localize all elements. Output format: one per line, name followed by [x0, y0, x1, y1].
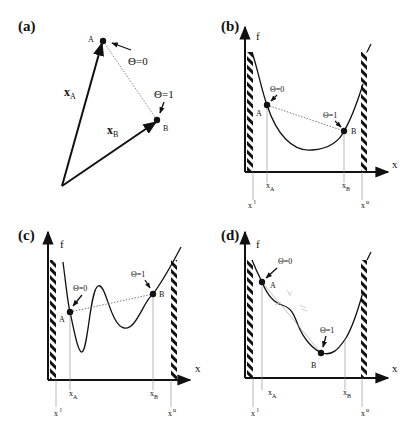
upper-bound-hatch: [171, 260, 177, 379]
lower-bound-hatch: [247, 260, 253, 377]
arrow-theta0: [271, 95, 277, 101]
panel-label: (a): [18, 18, 36, 35]
point-A: [67, 309, 73, 315]
theta1-label: Θ=1: [320, 326, 334, 335]
vector-xA-label: xA: [64, 85, 76, 101]
point-B: [318, 350, 324, 356]
panel-c: (c) f x A B Θ=0 Θ=1 xA xB xl xu: [18, 227, 201, 418]
tick-xA: xA: [266, 181, 275, 192]
function-curve: [63, 247, 181, 352]
theta0-label: Θ=0: [270, 85, 284, 94]
x-axis-label: x: [195, 362, 201, 374]
lower-bound-hatch: [247, 52, 253, 171]
theta0-label: Θ=0: [128, 55, 148, 67]
point-A-label: A: [88, 35, 94, 44]
tick-xB: xB: [150, 389, 158, 400]
tick-xA: xA: [268, 388, 277, 399]
arrow-theta0: [73, 295, 82, 306]
faint-step-marks: [300, 305, 307, 311]
point-B-label: B: [311, 361, 316, 370]
panel-label: (c): [18, 227, 35, 244]
tick-xu: xu: [361, 407, 369, 418]
point-B: [341, 128, 347, 134]
tick-xu: xu: [168, 407, 176, 418]
panel-b: (b) f x A B Θ=0 Θ=1 xA xB xl xu: [221, 18, 398, 210]
arrow-theta1: [160, 102, 164, 113]
theta0-label: Θ=0: [278, 257, 292, 266]
panel-label: (d): [221, 227, 239, 244]
arrow-theta0: [266, 268, 277, 278]
theta1-label: Θ=1: [131, 270, 145, 279]
y-axis-label: f: [60, 238, 64, 250]
figure-canvas: (a) A B Θ=0 Θ=1 xA xB (b) f x A B Θ=0 Θ=…: [0, 0, 416, 430]
faint-step-marks: [287, 290, 292, 296]
point-B: [154, 117, 160, 123]
lower-bound-hatch: [50, 260, 56, 379]
tick-xB: xB: [343, 388, 351, 399]
point-A: [259, 279, 265, 285]
x-axis-label: x: [392, 362, 398, 374]
panel-a: (a) A B Θ=0 Θ=1 xA xB: [18, 18, 174, 186]
x-axis-label: x: [392, 158, 398, 170]
function-curve: [252, 260, 363, 354]
tick-xl: xl: [54, 407, 62, 418]
tick-xu: xu: [361, 199, 369, 210]
point-B-label: B: [163, 124, 168, 133]
arrow-theta1: [323, 336, 326, 347]
point-A-label: A: [270, 281, 276, 290]
point-B: [150, 291, 156, 297]
point-A-label: A: [59, 315, 65, 324]
point-A-label: A: [256, 109, 262, 118]
panel-label: (b): [221, 18, 239, 35]
y-axis-label: f: [256, 30, 260, 42]
tick-xl: xl: [248, 199, 256, 210]
arrow-theta0: [112, 43, 131, 50]
tick-xl: xl: [251, 407, 259, 418]
curve-tail: [367, 44, 371, 52]
upper-bound-hatch: [361, 260, 367, 377]
tick-xB: xB: [342, 181, 350, 192]
vector-xA: [62, 43, 102, 186]
arrow-theta1: [335, 121, 341, 127]
y-axis-label: f: [256, 238, 260, 250]
theta1-label: Θ=1: [323, 111, 337, 120]
point-B-label: B: [351, 127, 356, 136]
segment-AB: [70, 294, 153, 312]
upper-bound-hatch: [361, 52, 367, 171]
point-A: [264, 102, 270, 108]
panel-d: (d) f x A B Θ=0 Θ=1 xA xB xl xu: [221, 227, 398, 418]
curve-tail: [367, 252, 371, 260]
tick-xA: xA: [69, 389, 78, 400]
theta0-label: Θ=0: [73, 284, 87, 293]
point-A: [100, 38, 106, 44]
point-B-label: B: [159, 290, 164, 299]
arrow-theta1: [145, 280, 150, 288]
function-curve: [252, 52, 363, 150]
vector-xB-label: xB: [107, 123, 118, 139]
segment-AB: [103, 41, 157, 120]
theta1-label: Θ=1: [154, 88, 174, 100]
